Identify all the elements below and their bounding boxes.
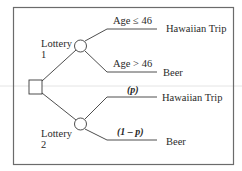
chance-node-lottery-1 bbox=[75, 40, 87, 52]
branch-condition-age-le-46: Age ≤ 46 bbox=[113, 15, 152, 26]
outcome-beer-1: Beer bbox=[163, 67, 183, 78]
lottery-2-label: Lottery 2 bbox=[41, 128, 72, 150]
outcome-beer-2: Beer bbox=[166, 136, 186, 147]
decision-node-square bbox=[29, 80, 42, 94]
outcome-hawaiian-trip-2: Hawaiian Trip bbox=[162, 92, 222, 103]
branch-probability-1-minus-p: (1 – p) bbox=[117, 126, 144, 137]
lottery-1-label-line2: 1 bbox=[41, 49, 72, 60]
edge-lottery-2-branch-1 bbox=[85, 97, 157, 119]
lottery-2-label-line2: 2 bbox=[41, 139, 72, 150]
lottery-2-label-line1: Lottery bbox=[41, 128, 72, 139]
lottery-1-label: Lottery 1 bbox=[41, 38, 72, 60]
outcome-hawaiian-trip-1: Hawaiian Trip bbox=[166, 23, 226, 34]
branch-condition-age-gt-46: Age > 46 bbox=[113, 58, 152, 69]
edge-decision-to-lottery-2 bbox=[42, 93, 76, 120]
edge-lottery-1-branch-1 bbox=[85, 29, 157, 41]
lottery-1-label-line1: Lottery bbox=[41, 38, 72, 49]
branch-probability-p: (p) bbox=[127, 84, 139, 95]
chance-node-lottery-2 bbox=[75, 118, 87, 130]
